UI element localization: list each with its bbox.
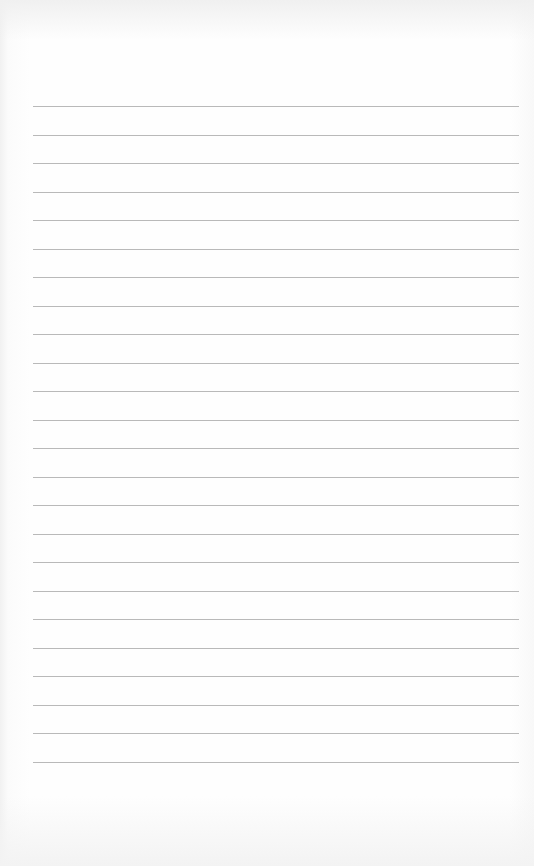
ruled-line — [33, 220, 519, 221]
ruled-line — [33, 391, 519, 392]
lined-paper-sheet — [0, 0, 534, 866]
ruled-line — [33, 762, 519, 763]
ruled-line — [33, 249, 519, 250]
ruled-line — [33, 420, 519, 421]
ruled-line — [33, 705, 519, 706]
ruled-line — [33, 477, 519, 478]
ruled-line — [33, 562, 519, 563]
ruled-line — [33, 591, 519, 592]
ruled-line — [33, 676, 519, 677]
ruled-line — [33, 448, 519, 449]
ruled-line — [33, 619, 519, 620]
ruled-line — [33, 192, 519, 193]
bottom-shading — [0, 796, 534, 866]
ruled-line — [33, 306, 519, 307]
ruled-line — [33, 505, 519, 506]
ruled-line — [33, 733, 519, 734]
ruled-line — [33, 106, 519, 107]
ruled-line — [33, 534, 519, 535]
top-shading — [0, 0, 534, 40]
ruled-line — [33, 163, 519, 164]
ruled-line — [33, 363, 519, 364]
ruled-line — [33, 648, 519, 649]
ruled-line — [33, 334, 519, 335]
ruled-line — [33, 277, 519, 278]
ruled-line — [33, 135, 519, 136]
